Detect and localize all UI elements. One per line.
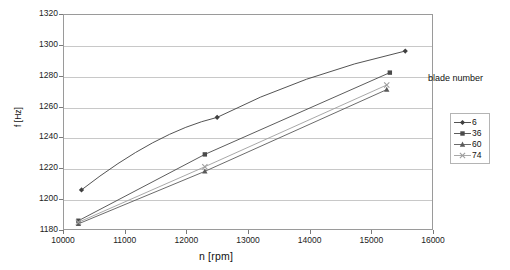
x-tick-mark xyxy=(433,230,434,234)
gridline xyxy=(64,108,432,109)
x-tick-label: 11000 xyxy=(95,236,155,245)
x-axis-label: n [rpm] xyxy=(199,250,233,262)
y-tick-label: 1260 xyxy=(0,102,58,111)
y-tick-mark xyxy=(59,168,63,169)
data-point-square xyxy=(460,131,464,135)
x-tick-label: 16000 xyxy=(403,236,463,245)
gridline xyxy=(64,46,432,47)
y-tick-label: 1180 xyxy=(0,225,58,234)
legend[interactable]: 6366074 xyxy=(450,113,490,164)
y-tick-mark xyxy=(59,76,63,77)
y-tick-mark xyxy=(59,107,63,108)
y-tick-label: 1320 xyxy=(0,9,58,18)
y-tick-label: 1280 xyxy=(0,71,58,80)
gridline xyxy=(64,169,432,170)
legend-item-36[interactable]: 36 xyxy=(453,128,487,139)
x-tick-mark xyxy=(310,230,311,234)
y-tick-label: 1300 xyxy=(0,40,58,49)
y-tick-label: 1200 xyxy=(0,194,58,203)
legend-label: 74 xyxy=(472,151,481,160)
chart-container: 13201300128012601240122012001180 1000011… xyxy=(0,0,510,270)
x-tick-mark xyxy=(248,230,249,234)
x-tick-mark xyxy=(63,230,64,234)
y-tick-label: 1220 xyxy=(0,163,58,172)
legend-marker-cross-icon xyxy=(453,150,472,161)
gridline xyxy=(64,77,432,78)
legend-marker-triangle-icon xyxy=(453,139,472,150)
y-axis-label: f [Hz] xyxy=(13,87,23,147)
x-tick-label: 12000 xyxy=(156,236,216,245)
x-tick-mark xyxy=(371,230,372,234)
y-tick-mark xyxy=(59,137,63,138)
x-tick-label: 15000 xyxy=(341,236,401,245)
legend-marker-diamond-icon xyxy=(453,117,472,128)
legend-title: blade number xyxy=(428,73,483,83)
y-tick-mark xyxy=(59,199,63,200)
legend-label: 60 xyxy=(472,140,481,149)
x-tick-mark xyxy=(186,230,187,234)
legend-item-74[interactable]: 74 xyxy=(453,150,487,161)
y-tick-label: 1240 xyxy=(0,132,58,141)
legend-item-60[interactable]: 60 xyxy=(453,139,487,150)
y-tick-mark xyxy=(59,14,63,15)
gridline xyxy=(64,138,432,139)
legend-item-6[interactable]: 6 xyxy=(453,117,487,128)
legend-label: 6 xyxy=(472,118,477,127)
plot-area xyxy=(63,14,433,230)
x-tick-label: 14000 xyxy=(280,236,340,245)
gridline xyxy=(64,200,432,201)
x-tick-mark xyxy=(125,230,126,234)
legend-label: 36 xyxy=(472,129,481,138)
y-tick-mark xyxy=(59,45,63,46)
x-tick-label: 13000 xyxy=(218,236,278,245)
legend-marker-square-icon xyxy=(453,128,472,139)
data-point-diamond xyxy=(460,120,465,125)
x-axis-label-wrap: n [rpm] xyxy=(0,250,510,262)
x-tick-label: 10000 xyxy=(33,236,93,245)
